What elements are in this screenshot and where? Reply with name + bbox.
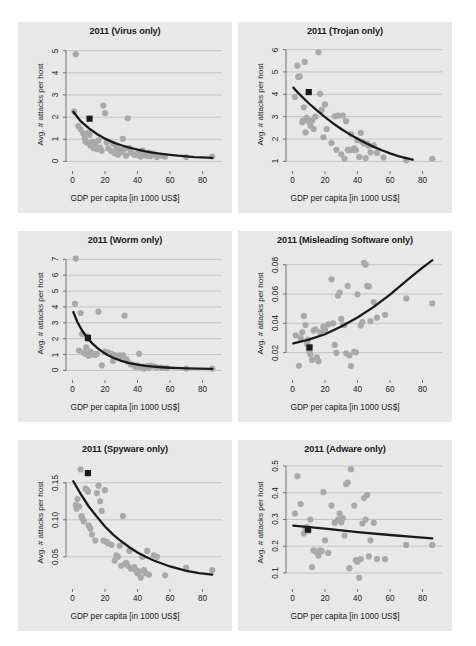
- regression-curve: [73, 481, 212, 574]
- data-point: [108, 542, 114, 548]
- x-tick-label-text: 20: [320, 385, 329, 394]
- data-point: [356, 575, 362, 581]
- highlight-marker: [306, 344, 312, 350]
- y-axis-label-spyware: Avg. # attacks per host: [36, 461, 45, 584]
- data-point: [382, 556, 388, 562]
- data-point: [146, 572, 152, 578]
- y-tick-label-text: 3: [271, 114, 280, 119]
- data-point: [92, 537, 98, 543]
- y-tick-label-text: 5: [51, 289, 60, 294]
- x-tick-label-text: 60: [165, 176, 174, 185]
- highlight-marker: [86, 116, 92, 122]
- data-point: [374, 315, 380, 321]
- x-tick-label-text: 20: [320, 594, 329, 603]
- data-point: [363, 516, 369, 522]
- data-point: [307, 516, 313, 522]
- data-point: [136, 351, 142, 357]
- y-tick-label-text: 0.06: [271, 286, 280, 302]
- chart-panel-misleading_software: 2011 (Misleading Software only)0.020.040…: [238, 231, 452, 422]
- data-point: [333, 350, 339, 356]
- data-point: [73, 51, 79, 57]
- y-tick-label-text: 0.3: [271, 514, 280, 525]
- data-point: [301, 313, 307, 319]
- data-point: [78, 466, 84, 472]
- y-tick-label-text: 0.4: [271, 487, 280, 498]
- figure-canvas: 2011 (Virus only)012345020406080Avg. # a…: [0, 0, 476, 646]
- data-point: [117, 543, 123, 549]
- data-point: [115, 554, 121, 560]
- y-tick-label-text: 0.10: [51, 512, 60, 528]
- x-axis-label-adware: GDP per capita [in 1000 US$]: [238, 611, 452, 621]
- data-point: [358, 556, 364, 562]
- y-tick-label-text: 0.1: [271, 567, 280, 578]
- y-tick-label-text: 0.2: [271, 541, 280, 552]
- data-point: [348, 363, 354, 369]
- y-tick-label-text: 2: [51, 115, 60, 120]
- y-tick-label-text: 7: [51, 257, 60, 262]
- data-point: [354, 291, 360, 297]
- data-point: [429, 542, 435, 548]
- data-point: [325, 550, 331, 556]
- y-tick-label-text: 1: [51, 137, 60, 142]
- data-point: [302, 322, 308, 328]
- data-point: [338, 316, 344, 322]
- data-point: [120, 136, 126, 142]
- y-tick-label-text: 5: [51, 48, 60, 53]
- data-point: [299, 329, 305, 335]
- data-point: [73, 255, 79, 261]
- y-tick-label-text: 5: [271, 70, 280, 75]
- x-axis-label-misleading_software: GDP per capita [in 1000 US$]: [238, 402, 452, 412]
- scatter-series-spyware: [73, 466, 216, 580]
- data-point: [315, 49, 321, 55]
- x-tick-label-text: 0: [290, 176, 295, 185]
- data-point: [144, 548, 150, 554]
- regression-curve: [73, 312, 212, 369]
- data-point: [89, 532, 95, 538]
- data-point: [76, 503, 82, 509]
- data-point: [94, 351, 100, 357]
- x-tick-label-text: 0: [70, 385, 75, 394]
- data-point: [209, 567, 215, 573]
- data-point: [382, 312, 388, 318]
- x-tick-label-text: 40: [353, 385, 362, 394]
- data-point: [297, 73, 303, 79]
- x-tick-label-text: 0: [70, 176, 75, 185]
- data-point: [154, 554, 160, 560]
- data-point: [403, 542, 409, 548]
- data-point: [328, 140, 334, 146]
- data-point: [125, 115, 131, 121]
- x-tick-label-text: 40: [353, 594, 362, 603]
- data-point: [298, 501, 304, 507]
- data-point: [312, 114, 318, 120]
- data-point: [301, 104, 307, 110]
- x-tick-label-text: 20: [100, 176, 109, 185]
- highlight-marker: [85, 470, 91, 476]
- y-tick-label-text: 0.05: [51, 549, 60, 565]
- data-point: [380, 154, 386, 160]
- y-axis-label-adware: Avg. # attacks per host: [256, 461, 265, 584]
- data-point: [102, 110, 108, 116]
- data-point: [85, 489, 91, 495]
- y-tick-label-text: 6: [271, 47, 280, 52]
- data-point: [328, 276, 334, 282]
- x-axis-label-virus: GDP per capita [in 1000 US$]: [18, 193, 232, 203]
- data-point: [121, 313, 127, 319]
- data-point: [374, 556, 380, 562]
- data-point: [138, 574, 144, 580]
- chart-panel-virus: 2011 (Virus only)012345020406080Avg. # a…: [18, 22, 232, 213]
- data-point: [340, 112, 346, 118]
- data-point: [317, 91, 323, 97]
- x-tick-label-text: 0: [70, 594, 75, 603]
- y-tick-label-text: 2: [51, 336, 60, 341]
- data-point: [337, 289, 343, 295]
- data-point: [364, 492, 370, 498]
- data-point: [311, 126, 317, 132]
- highlight-marker: [305, 527, 311, 533]
- data-point: [345, 479, 351, 485]
- data-point: [302, 129, 308, 135]
- data-point: [374, 150, 380, 156]
- data-point: [341, 156, 347, 162]
- data-point: [351, 502, 357, 508]
- y-tick-label-text: 3: [51, 321, 60, 326]
- data-point: [358, 130, 364, 136]
